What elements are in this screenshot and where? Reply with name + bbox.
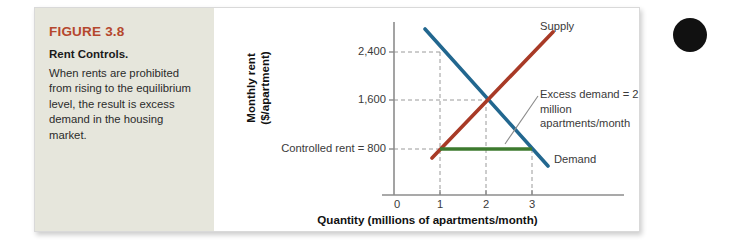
supply-curve: [432, 32, 553, 158]
figure-caption-panel: FIGURE 3.8 Rent Controls. When rents are…: [35, 8, 214, 231]
demand-curve-label: Demand: [554, 153, 596, 165]
corner-dot-marker: [673, 18, 707, 52]
x-tick-label-3: 3: [519, 198, 545, 210]
figure-root: FIGURE 3.8 Rent Controls. When rents are…: [0, 0, 735, 248]
x-tick-label-1: 1: [427, 198, 453, 210]
y-tick-label-2400: 2,400: [276, 45, 386, 57]
figure-description: When rents are prohibited from rising to…: [49, 66, 200, 143]
y-axis-title: Monthly rent ($/apartment): [244, 18, 272, 158]
y-tick-label-1600: 1,600: [276, 93, 386, 105]
chart-plot-area: 2,400 1,600 Controlled rent = 800 0 1 2 …: [214, 8, 641, 231]
x-tick-label-2: 2: [473, 198, 499, 210]
figure-card: FIGURE 3.8 Rent Controls. When rents are…: [34, 7, 640, 232]
x-axis-title: Quantity (millions of apartments/month): [214, 213, 641, 226]
excess-demand-line2: apartments/month: [540, 117, 630, 129]
figure-subtitle: Rent Controls.: [49, 48, 200, 60]
excess-demand-annotation: Excess demand = 2 million apartments/mon…: [540, 87, 664, 131]
excess-demand-line1: Excess demand = 2 million: [540, 88, 639, 115]
figure-number: FIGURE 3.8: [49, 24, 200, 39]
supply-curve-label: Supply: [540, 20, 574, 32]
vertical-gridlines: [440, 52, 532, 195]
x-tick-label-0: 0: [384, 198, 410, 210]
y-tick-label-controlled-rent: Controlled rent = 800: [212, 142, 386, 154]
y-axis-title-line2: ($/apartment): [258, 51, 271, 124]
y-axis-title-line1: Monthly rent: [244, 53, 257, 123]
